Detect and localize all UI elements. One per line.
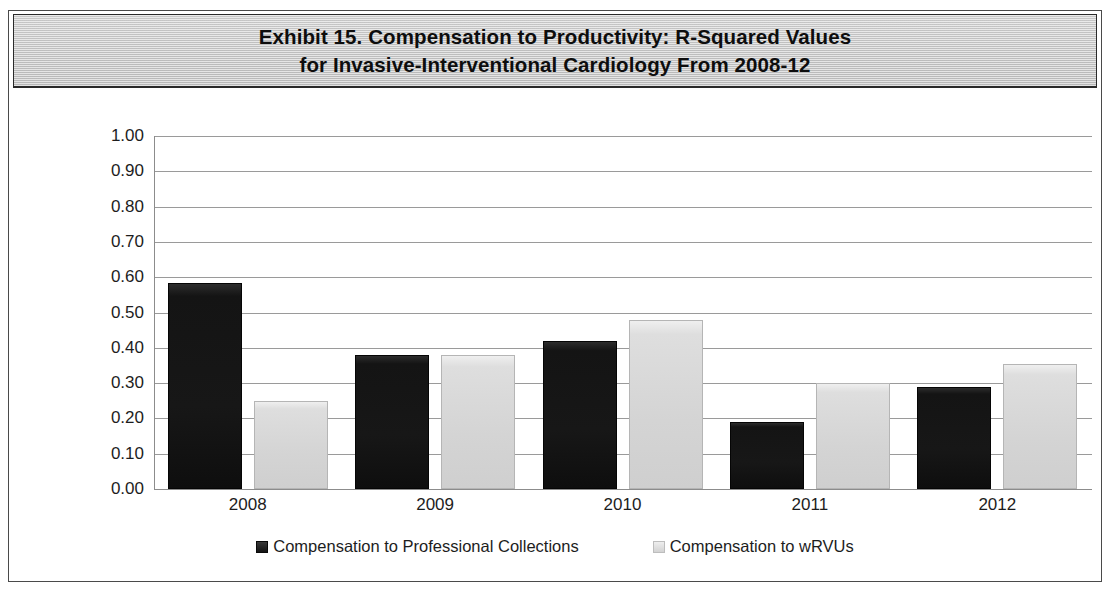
y-axis-tick-label: 0.80 (74, 197, 144, 217)
gridline (155, 383, 1092, 384)
plot-area (154, 136, 1092, 490)
gridline (155, 348, 1092, 349)
gridline (155, 171, 1092, 172)
x-axis-tick-label-2011: 2011 (792, 495, 829, 515)
x-axis-tick-label-2012: 2012 (978, 495, 1016, 515)
legend-swatch-light-icon (653, 541, 665, 553)
y-axis-tick-labels: 1.000.900.800.700.600.500.400.300.200.10… (69, 136, 144, 489)
legend-entry-2[interactable]: Compensation to wRVUs (653, 537, 854, 556)
x-axis-tick-labels: 20082009201020112012 (154, 495, 1091, 523)
y-axis-tick-label: 1.00 (74, 126, 144, 146)
gridline (155, 454, 1092, 455)
y-axis-tick-label: 0.70 (74, 232, 144, 252)
x-axis-tick-label-2008: 2008 (229, 495, 267, 515)
legend-swatch-dark-icon (256, 541, 268, 553)
chart-legend: Compensation to Professional Collections… (9, 537, 1101, 556)
y-axis-tick-label: 0.20 (74, 408, 144, 428)
y-axis-tick-label: 0.30 (74, 373, 144, 393)
y-axis-tick-label: 0.10 (74, 444, 144, 464)
y-axis-tick-label: 0.00 (74, 479, 144, 499)
y-axis-tick-label: 0.90 (74, 161, 144, 181)
legend-label: Compensation to wRVUs (670, 537, 854, 556)
x-axis-tick-label-2010: 2010 (604, 495, 642, 515)
legend-entry-1[interactable]: Compensation to Professional Collections (256, 537, 578, 556)
gridline (155, 207, 1092, 208)
gridline (155, 418, 1092, 419)
exhibit-frame: Exhibit 15. Compensation to Productivity… (8, 10, 1102, 582)
gridline (155, 136, 1092, 137)
exhibit-title-band: Exhibit 15. Compensation to Productivity… (13, 14, 1097, 88)
x-axis-tick-label-2009: 2009 (416, 495, 454, 515)
y-axis-tick-label: 0.40 (74, 338, 144, 358)
gridline (155, 242, 1092, 243)
legend-label: Compensation to Professional Collections (273, 537, 578, 556)
title-line-1: Exhibit 15. Compensation to Productivity… (259, 23, 851, 50)
y-axis-tick-label: 0.60 (74, 267, 144, 287)
title-line-2: for Invasive-Interventional Cardiology F… (259, 51, 851, 78)
y-axis-tick-label: 0.50 (74, 303, 144, 323)
gridline (155, 277, 1092, 278)
gridline (155, 313, 1092, 314)
page-title: Exhibit 15. Compensation to Productivity… (259, 23, 851, 77)
chart-canvas: 1.000.900.800.700.600.500.400.300.200.10… (9, 89, 1101, 581)
